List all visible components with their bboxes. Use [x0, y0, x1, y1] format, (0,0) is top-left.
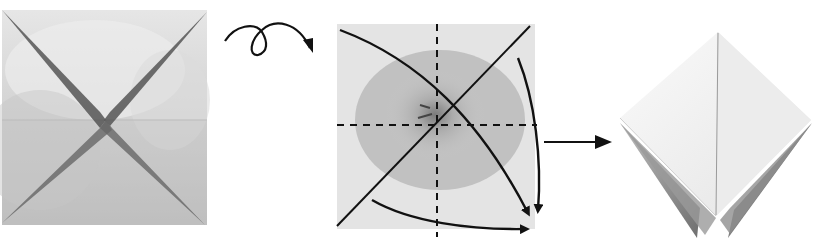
step-1-creased-square: [0, 10, 210, 225]
step-2-fold-instruction: [337, 24, 539, 237]
origami-diagram: Origami folding sequence: [0, 0, 813, 246]
next-step-arrow-icon: [544, 135, 612, 149]
turn-over-arrow-icon: [225, 24, 313, 56]
step-3-preliminary-base: [620, 32, 812, 238]
